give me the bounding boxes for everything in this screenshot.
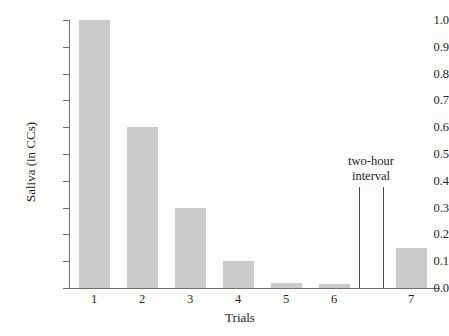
bar <box>175 208 206 288</box>
y-tick-mark <box>63 100 69 101</box>
y-tick-mark <box>63 234 69 235</box>
y-tick-label: 1.0 <box>421 14 449 27</box>
x-tick-label: 5 <box>266 293 306 306</box>
annotation-line-2: interval <box>311 169 431 184</box>
x-tick-label: 2 <box>122 293 162 306</box>
annotation-line-1: two-hour <box>311 154 431 169</box>
x-tick-label: 4 <box>218 293 258 306</box>
y-tick-label: 0.6 <box>421 121 449 134</box>
bar <box>223 261 254 288</box>
axis-break-line-left <box>359 187 360 288</box>
y-tick-mark <box>63 20 69 21</box>
y-tick-mark <box>63 127 69 128</box>
y-tick-mark <box>63 208 69 209</box>
x-tick-label: 1 <box>74 293 114 306</box>
y-axis-title: Saliva (in CCs) <box>23 82 39 242</box>
bar <box>319 284 350 288</box>
x-tick-label: 3 <box>170 293 210 306</box>
y-tick-label: 0.8 <box>421 68 449 81</box>
x-axis-line <box>69 288 440 289</box>
y-tick-mark <box>63 74 69 75</box>
chart-figure: Saliva (in CCs) Trials 0.00.10.20.30.40.… <box>0 0 449 336</box>
bar <box>79 20 110 288</box>
bar <box>396 248 427 288</box>
axis-break-line-right <box>383 187 384 288</box>
y-tick-mark <box>63 288 69 289</box>
two-hour-interval-annotation: two-hour interval <box>311 154 431 184</box>
y-tick-label: 0.7 <box>421 94 449 107</box>
y-tick-mark <box>63 181 69 182</box>
bar <box>271 283 302 288</box>
plot-area: Saliva (in CCs) Trials 0.00.10.20.30.40.… <box>0 0 449 336</box>
y-tick-label: 0.2 <box>421 228 449 241</box>
y-tick-mark <box>63 47 69 48</box>
y-tick-mark <box>63 261 69 262</box>
y-tick-label: 0.3 <box>421 202 449 215</box>
x-tick-label: 7 <box>391 293 431 306</box>
x-axis-title: Trials <box>140 310 340 326</box>
bar <box>127 127 158 288</box>
y-tick-label: 0.9 <box>421 41 449 54</box>
y-axis-line <box>69 20 70 289</box>
y-tick-mark <box>63 154 69 155</box>
x-tick-label: 6 <box>314 293 354 306</box>
